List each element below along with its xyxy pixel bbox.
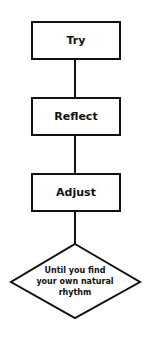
node-reflect-label: Reflect — [54, 110, 97, 123]
node-adjust-label: Adjust — [56, 186, 96, 199]
node-try: Try — [31, 21, 121, 60]
decision-label: Until you find your own natural rhythm — [30, 265, 120, 298]
decision-label-line-3: rhythm — [30, 287, 120, 298]
node-reflect: Reflect — [31, 97, 121, 136]
node-try-label: Try — [67, 34, 86, 47]
decision-label-line-1: Until you find — [30, 265, 120, 276]
decision-label-line-2: your own natural — [30, 276, 120, 287]
node-adjust: Adjust — [31, 173, 121, 212]
